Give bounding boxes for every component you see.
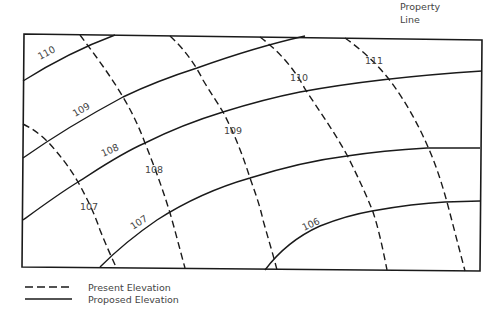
proposed-label-107: 107	[128, 213, 149, 232]
legend-present-label: Present Elevation	[88, 282, 171, 293]
dashed-line-swatch-icon	[24, 284, 72, 290]
solid-line-swatch-icon	[24, 296, 72, 302]
property-boundary	[22, 34, 482, 271]
legend-present: Present Elevation	[24, 281, 179, 293]
present-label-108: 108	[145, 164, 163, 175]
proposed-contour-109	[23, 36, 305, 158]
present-contour-107	[23, 124, 116, 267]
proposed-contour-108	[23, 71, 482, 220]
proposed-contour-110	[23, 35, 115, 81]
legend-proposed-label: Proposed Elevation	[88, 294, 179, 305]
present-label-107: 107	[80, 201, 98, 212]
present-label-111: 111	[365, 55, 383, 66]
present-label-109: 109	[224, 125, 242, 136]
present-contour-108	[80, 35, 185, 268]
proposed-label-110: 110	[36, 44, 57, 62]
grading-plan-diagram: 110 109 108 107 106 107 108 109 110 111	[0, 0, 498, 319]
proposed-label-108: 108	[99, 141, 120, 158]
legend: Present Elevation Proposed Elevation	[24, 281, 179, 305]
present-label-110: 110	[290, 72, 308, 83]
legend-proposed: Proposed Elevation	[24, 293, 179, 305]
